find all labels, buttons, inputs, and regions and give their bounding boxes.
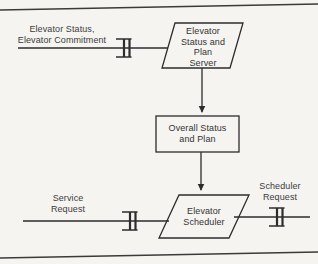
task-label-status-plan-server: Elevator Status and Plan Server	[170, 26, 236, 68]
flow-label-scheduler-request: Scheduler Request	[249, 181, 311, 202]
task-label-elevator-scheduler: Elevator Scheduler	[173, 206, 235, 227]
flow-label-elevator-status-commitment: Elevator Status, Elevator Commitment	[10, 24, 114, 45]
scanned-figure-page: Elevator Status, Elevator Commitment Ele…	[0, 0, 318, 264]
store-label-overall-status-plan: Overall Status and Plan	[157, 123, 238, 144]
top-rule	[0, 4, 318, 10]
bottom-rule	[0, 252, 318, 258]
flow-label-service-request: Service Request	[39, 193, 97, 214]
